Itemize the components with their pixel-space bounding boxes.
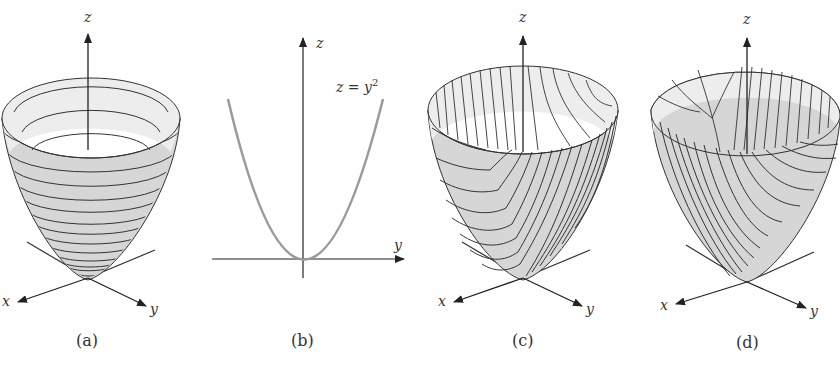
caption-d: (d) — [736, 333, 759, 352]
panel-a: z x y (a) — [2, 9, 180, 350]
axis-label-y: y — [149, 301, 159, 317]
equation-label: z = y2 — [335, 77, 378, 95]
caption-b: (b) — [291, 331, 314, 350]
axis-label-z: z — [315, 35, 324, 51]
axis-label-y: y — [809, 303, 819, 319]
axis-label-z: z — [83, 9, 92, 25]
axis-label-y: y — [393, 237, 403, 253]
panel-c: z x y (c) — [428, 9, 618, 350]
panel-b: z y z = y2 (b) — [212, 35, 404, 350]
axis-label-z: z — [742, 11, 751, 27]
caption-c: (c) — [512, 331, 533, 350]
axis-label-x: x — [2, 293, 10, 309]
axis-label-y: y — [585, 301, 595, 317]
figure-canvas: z x y (a) z y z = y2 (b) — [0, 0, 840, 366]
axis-label-z: z — [518, 9, 527, 25]
axis-label-x: x — [438, 293, 446, 309]
panel-d: z x y (d) — [651, 11, 840, 352]
caption-a: (a) — [76, 331, 98, 350]
axis-label-x: x — [660, 297, 668, 313]
